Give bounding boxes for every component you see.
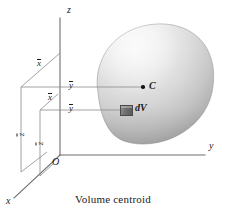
centroid-label: C: [149, 81, 156, 91]
centroid-dot: [141, 85, 145, 89]
volume-element-label: dV: [135, 103, 147, 113]
y-bar-lower-label: y: [69, 104, 73, 113]
c-base-diagonal: [21, 152, 47, 172]
leader-ticks: [60, 87, 66, 110]
x-bar-upper-label: x: [37, 59, 41, 68]
x-bar-lower-label: x: [48, 93, 52, 102]
y-bar-upper-label: y: [69, 81, 73, 90]
y-axis-label: y: [209, 141, 213, 151]
volume-element-box: [120, 105, 133, 116]
figure-caption: Volume centroid: [0, 193, 226, 205]
overbar: [69, 81, 73, 82]
overbar: [37, 59, 41, 60]
overbar: [48, 93, 52, 94]
z-axis-label: z: [67, 5, 71, 15]
overbar: [69, 104, 73, 105]
z-bar-outer-label: z: [17, 128, 26, 142]
origin-label: O: [52, 157, 59, 167]
figure-canvas: [0, 0, 226, 211]
overbar: [16, 133, 17, 137]
volume-centroid-figure: z y x O x y x y z: [0, 0, 226, 211]
overbar: [35, 142, 36, 146]
z-bar-inner-label: z: [36, 137, 45, 151]
